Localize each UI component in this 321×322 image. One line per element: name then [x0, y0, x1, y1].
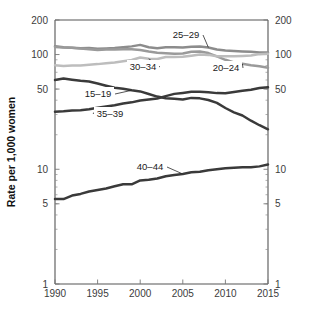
y-axis-title: Rate per 1,000 women — [5, 97, 17, 207]
y-tick-label-left-5: 5 — [42, 198, 48, 209]
series-line-15-19 — [55, 79, 268, 130]
x-tick-label-1990: 1990 — [44, 288, 67, 299]
x-tick-label-2015: 2015 — [257, 288, 280, 299]
leader-line-15-19 — [115, 90, 132, 94]
x-axis-ticks — [55, 280, 268, 285]
chart-figure: Rate per 1,000 women 151050100200 151050… — [0, 0, 321, 322]
x-tick-label-1995: 1995 — [86, 288, 109, 299]
series-label-15-19: 15–19 — [85, 88, 111, 99]
y-tick-label-left-100: 100 — [31, 49, 48, 60]
y-tick-label-right-100: 100 — [275, 49, 292, 60]
y-tick-label-left-50: 50 — [37, 84, 49, 95]
series-label-20-24: 20–24 — [213, 62, 239, 73]
series-label-40-44: 40–44 — [137, 161, 163, 172]
x-axis-tick-labels: 199019952000200520102015 — [44, 288, 280, 299]
series-label-35-39: 35–39 — [97, 108, 123, 119]
y-tick-label-left-10: 10 — [37, 164, 49, 175]
leader-line-25-29 — [203, 35, 208, 48]
series-label-25-29: 25–29 — [173, 29, 199, 40]
y-tick-label-left-200: 200 — [31, 15, 48, 26]
y-tick-label-right-5: 5 — [275, 198, 281, 209]
birth-rate-line-chart: Rate per 1,000 women 151050100200 151050… — [0, 0, 321, 322]
leader-line-40-44 — [167, 167, 183, 174]
y-tick-label-right-10: 10 — [275, 164, 287, 175]
x-tick-label-2010: 2010 — [214, 288, 237, 299]
series-label-30-34: 30–34 — [130, 61, 156, 72]
y-axis-right-tick-labels: 151050100200 — [275, 15, 292, 290]
y-axis-left-tick-labels: 151050100200 — [31, 15, 48, 290]
y-tick-label-right-200: 200 — [275, 15, 292, 26]
y-tick-label-right-50: 50 — [275, 84, 287, 95]
y-axis-major-ticks — [55, 20, 268, 284]
x-tick-label-2000: 2000 — [129, 288, 152, 299]
x-tick-label-2005: 2005 — [172, 288, 195, 299]
